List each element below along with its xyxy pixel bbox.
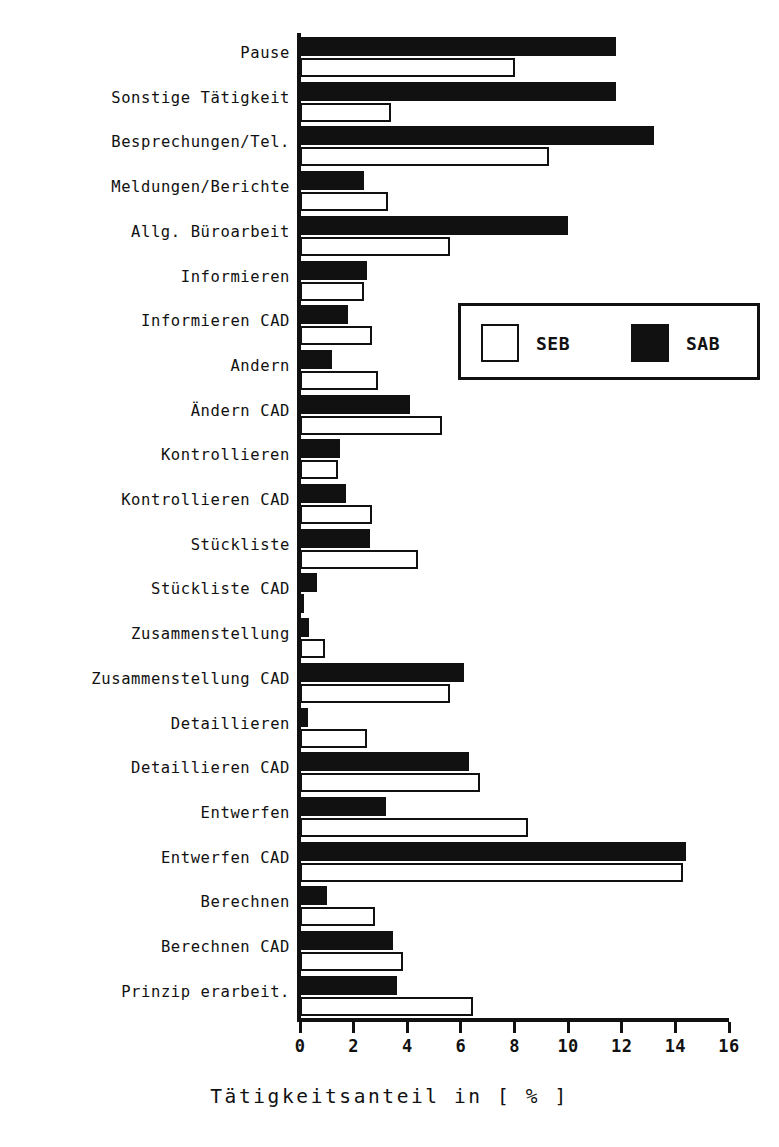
legend-swatch-seb-icon — [481, 324, 519, 362]
bar-row — [300, 704, 729, 749]
bar-seb — [300, 863, 683, 882]
category-label: Zusammenstellung — [0, 625, 290, 643]
bar-sab — [300, 708, 308, 727]
bar-row — [300, 882, 729, 927]
x-tick-label: 14 — [665, 1036, 686, 1056]
category-label: Detaillieren — [0, 715, 290, 733]
bar-seb — [300, 147, 549, 166]
legend-label-seb: SEB — [536, 333, 570, 354]
x-tick-mark — [513, 1022, 516, 1033]
bar-row — [300, 659, 729, 704]
bar-sab — [300, 82, 616, 101]
bar-sab — [300, 171, 364, 190]
bar-seb — [300, 684, 450, 703]
bar-row — [300, 435, 729, 480]
bar-sab — [300, 126, 654, 145]
bar-chart: PauseSonstige TätigkeitBesprechungen/Tel… — [0, 0, 779, 1147]
x-tick-mark — [352, 1022, 355, 1033]
legend-entry-sab: SAB — [631, 322, 720, 364]
legend-entry-seb: SEB — [481, 322, 570, 364]
bar-sab — [300, 216, 568, 235]
bar-seb — [300, 58, 515, 77]
category-label: Stückliste — [0, 536, 290, 554]
x-tick-mark — [459, 1022, 462, 1033]
category-label: Entwerfen — [0, 804, 290, 822]
bar-sab — [300, 305, 348, 324]
bar-sab — [300, 752, 469, 771]
category-label: Berechnen — [0, 893, 290, 911]
x-tick-label: 12 — [611, 1036, 632, 1056]
category-label: Stückliste CAD — [0, 580, 290, 598]
category-label: Informieren — [0, 268, 290, 286]
bar-seb — [300, 997, 473, 1016]
category-label: Informieren CAD — [0, 312, 290, 330]
x-tick-label: 10 — [557, 1036, 578, 1056]
bar-seb — [300, 326, 372, 345]
bar-sab — [300, 797, 386, 816]
category-label: Ändern CAD — [0, 402, 290, 420]
bar-row — [300, 167, 729, 212]
bar-row — [300, 927, 729, 972]
category-label: Berechnen CAD — [0, 938, 290, 956]
legend-label-sab: SAB — [686, 333, 720, 354]
bar-seb — [300, 639, 325, 658]
x-tick-mark — [674, 1022, 677, 1033]
bar-row — [300, 793, 729, 838]
bar-sab — [300, 976, 397, 995]
category-label: Kontrollieren CAD — [0, 491, 290, 509]
bar-row — [300, 972, 729, 1017]
legend-swatch-sab-icon — [631, 324, 669, 362]
x-tick-label: 8 — [509, 1036, 520, 1056]
x-tick-label: 0 — [295, 1036, 306, 1056]
bar-row — [300, 212, 729, 257]
bar-row — [300, 78, 729, 123]
bar-sab — [300, 350, 332, 369]
bar-row — [300, 748, 729, 793]
bar-seb — [300, 460, 338, 479]
bar-seb — [300, 594, 304, 613]
category-label: Sonstige Tätigkeit — [0, 89, 290, 107]
bar-row — [300, 480, 729, 525]
x-tick-mark — [728, 1022, 731, 1033]
category-label: Andern — [0, 357, 290, 375]
category-label: Pause — [0, 44, 290, 62]
bar-row — [300, 838, 729, 883]
category-label: Kontrollieren — [0, 446, 290, 464]
x-tick-label: 2 — [348, 1036, 359, 1056]
bar-seb — [300, 729, 367, 748]
category-label: Zusammenstellung CAD — [0, 670, 290, 688]
bar-sab — [300, 484, 346, 503]
category-label: Besprechungen/Tel. — [0, 133, 290, 151]
bar-row — [300, 391, 729, 436]
bar-sab — [300, 261, 367, 280]
bar-row — [300, 257, 729, 302]
category-label: Prinzip erarbeit. — [0, 983, 290, 1001]
bar-sab — [300, 886, 327, 905]
x-tick-mark — [620, 1022, 623, 1033]
bar-row — [300, 122, 729, 167]
bar-sab — [300, 37, 616, 56]
bar-sab — [300, 439, 340, 458]
category-label: Allg. Büroarbeit — [0, 223, 290, 241]
x-tick-label: 16 — [718, 1036, 739, 1056]
bar-sab — [300, 931, 393, 950]
x-tick-label: 4 — [402, 1036, 413, 1056]
bar-sab — [300, 529, 370, 548]
bar-seb — [300, 416, 442, 435]
x-tick-mark — [567, 1022, 570, 1033]
category-axis-labels: PauseSonstige TätigkeitBesprechungen/Tel… — [0, 33, 290, 1018]
x-tick-mark — [299, 1022, 302, 1033]
bar-seb — [300, 282, 364, 301]
category-label: Meldungen/Berichte — [0, 178, 290, 196]
bar-row — [300, 525, 729, 570]
bar-row — [300, 614, 729, 659]
x-tick-mark — [406, 1022, 409, 1033]
bar-seb — [300, 773, 480, 792]
bar-sab — [300, 395, 410, 414]
x-axis-ticks: 0246810121416 — [300, 1022, 729, 1072]
bar-seb — [300, 371, 378, 390]
bar-seb — [300, 103, 391, 122]
bar-seb — [300, 505, 372, 524]
bar-seb — [300, 550, 418, 569]
bar-sab — [300, 573, 317, 592]
